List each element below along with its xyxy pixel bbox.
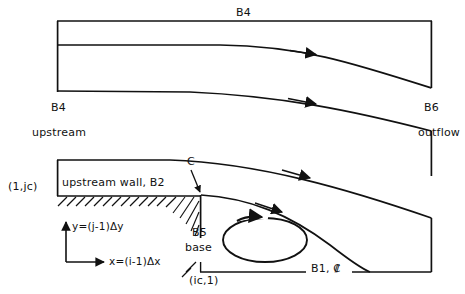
- label-inlet-b4: B4: [51, 101, 66, 114]
- label-inlet-upstream: upstream: [32, 126, 86, 139]
- label-x-axis: x=(i-1)Δx: [109, 255, 161, 267]
- label-centerline-b1: B1, ₡: [311, 262, 341, 275]
- label-corner-node-1jc: (1,jc): [8, 180, 37, 193]
- streamline-2: [57, 91, 431, 131]
- streamline-3: [57, 160, 431, 218]
- label-upstream-wall-b2: upstream wall, B2: [62, 176, 165, 189]
- streamline-1-arrow: [290, 51, 316, 55]
- label-step-base-sub: base: [185, 241, 212, 254]
- figure-canvas: B4 B4 upstream B6 outflow (1,jc) upstrea…: [0, 0, 465, 294]
- corner-pointer-arrow: [191, 170, 200, 192]
- label-corner-point-c: C: [187, 155, 195, 168]
- recirculation-vortex: [223, 218, 307, 262]
- label-top-wall-b4: B4: [236, 6, 251, 19]
- streamline-3-arrow: [282, 170, 310, 178]
- diagram-svg: [0, 0, 465, 294]
- streamline-1: [57, 45, 431, 88]
- label-outflow-sub: outflow: [418, 126, 460, 139]
- label-base-node-ic1: (ic,1): [189, 274, 218, 287]
- label-outflow-b6: B6: [424, 101, 439, 114]
- label-step-base-b5: B5: [192, 226, 207, 239]
- streamline-4-separating: [201, 195, 370, 272]
- label-y-axis: y=(j-1)Δy: [72, 220, 124, 232]
- streamline-4-arrow: [255, 203, 282, 212]
